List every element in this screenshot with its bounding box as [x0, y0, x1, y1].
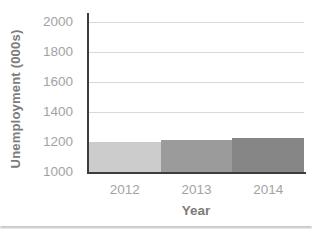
gridline-2000 — [89, 22, 304, 23]
y-tick-label-1800: 1800 — [0, 43, 73, 61]
y-axis-line — [87, 13, 89, 173]
y-tick-label-2000: 2000 — [0, 13, 73, 31]
x-tick-label-2014: 2014 — [228, 182, 308, 197]
y-axis-title: Unemployment (000s) — [8, 14, 26, 184]
x-axis-line — [87, 172, 306, 174]
bar-2012 — [89, 142, 161, 172]
y-tick-label-1400: 1400 — [0, 103, 73, 121]
bar-2014 — [232, 138, 304, 173]
gridline-1400 — [89, 112, 304, 113]
x-tick-label-2012: 2012 — [85, 182, 165, 197]
y-tick-label-1600: 1600 — [0, 73, 73, 91]
bar-2013 — [161, 140, 233, 172]
chart-screenshot: Unemployment (000s) 10001200140016001800… — [0, 0, 312, 236]
x-axis-title: Year — [156, 203, 236, 218]
bottom-divider — [0, 226, 312, 229]
y-tick-label-1000: 1000 — [0, 163, 73, 181]
x-tick-label-2013: 2013 — [157, 182, 237, 197]
plot-area — [89, 22, 304, 172]
gridline-1600 — [89, 82, 304, 83]
y-tick-label-1200: 1200 — [0, 133, 73, 151]
gridline-1800 — [89, 52, 304, 53]
